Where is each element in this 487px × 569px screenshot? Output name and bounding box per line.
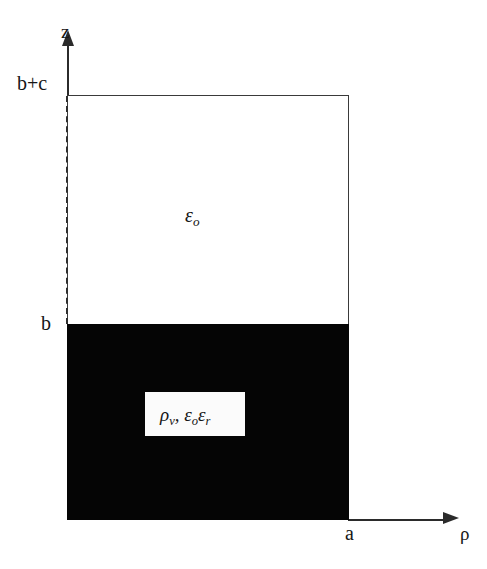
permittivity-free-symbol: ε (184, 404, 192, 425)
free-space-permittivity-label: εo (185, 205, 199, 228)
z-axis-label: z (61, 22, 69, 41)
rho-axis-line (348, 519, 445, 521)
z-tick-label-b-plus-c: b+c (17, 73, 47, 93)
epsilon-subscript: o (193, 214, 200, 229)
rho-axis-label: ρ (460, 524, 469, 543)
permittivity-rel-subscript: r (205, 414, 210, 428)
diagram-canvas: z ρ εo ρv, εoεr b+c b a (0, 0, 487, 569)
material-properties-label: ρv, εoεr (160, 405, 210, 427)
free-space-region (67, 95, 349, 325)
z-axis-line (67, 46, 69, 98)
rho-tick-label-a: a (345, 523, 354, 543)
label-separator: , (175, 404, 180, 425)
charge-density-symbol: ρ (160, 404, 169, 425)
rho-axis-arrowhead (443, 512, 459, 524)
z-axis-dashed-segment (66, 96, 68, 324)
epsilon-symbol: ε (185, 204, 193, 226)
z-tick-label-b: b (41, 313, 51, 333)
